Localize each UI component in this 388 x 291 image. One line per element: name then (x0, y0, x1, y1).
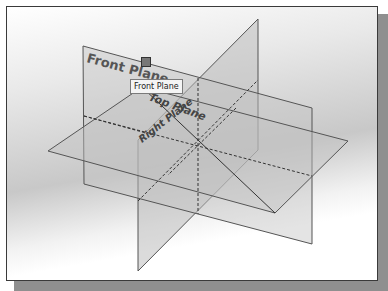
plane-scene[interactable]: Front Plane Top Plane Right Plane (0, 0, 388, 291)
selection-cursor-icon (141, 57, 151, 67)
tooltip: Front Plane (130, 79, 183, 94)
